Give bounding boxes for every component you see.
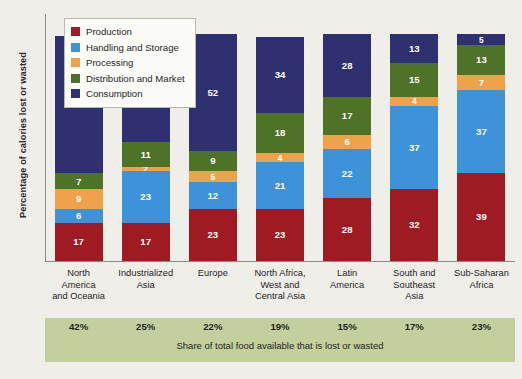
bar-segment[interactable]: 21 (256, 162, 304, 209)
bar-segment[interactable]: 7 (457, 75, 505, 91)
category-label-line: Southeast (381, 280, 448, 292)
category-label-line: America (314, 280, 381, 292)
category-label-line: South and (381, 268, 448, 280)
category-label-line: Sub-Saharan (448, 268, 515, 280)
x-axis-baseline (45, 261, 515, 262)
category-label: North Africa,West andCentral Asia (246, 268, 313, 303)
share-footer-note: Share of total food available that is lo… (45, 340, 515, 351)
bar-column[interactable]: 281762228 (323, 34, 371, 261)
category-label-line: Africa (448, 280, 515, 292)
bar-segment[interactable]: 4 (256, 153, 304, 162)
bar-segment[interactable]: 7 (55, 173, 103, 189)
bar-segment[interactable]: 23 (189, 209, 237, 261)
bar-column[interactable]: 52951223 (189, 34, 237, 261)
legend-item[interactable]: Processing (71, 55, 185, 71)
legend-item-label: Distribution and Market (86, 73, 185, 84)
bar-segment[interactable]: 5 (189, 171, 237, 182)
legend-item[interactable]: Consumption (71, 86, 185, 102)
legend-item[interactable]: Distribution and Market (71, 71, 185, 87)
bar-segment[interactable]: 12 (189, 182, 237, 209)
legend-item[interactable]: Production (71, 24, 185, 40)
category-label-line: Asia (112, 280, 179, 292)
bar-segment[interactable]: 4 (390, 97, 438, 106)
bar-segment[interactable]: 17 (55, 223, 103, 261)
legend-item-label: Consumption (86, 88, 143, 99)
bar-segment[interactable]: 17 (323, 97, 371, 135)
bar-segment[interactable]: 37 (457, 90, 505, 173)
legend-swatch-icon (71, 89, 80, 98)
bar-segment[interactable]: 34 (256, 37, 304, 113)
category-label: IndustrializedAsia (112, 268, 179, 291)
bar-segment[interactable]: 23 (256, 209, 304, 261)
legend-swatch-icon (71, 27, 80, 36)
legend-swatch-icon (71, 58, 80, 67)
category-label-line: Latin (314, 268, 381, 280)
legend-swatch-icon (71, 43, 80, 52)
category-label-line: West and (246, 280, 313, 292)
bar-segment[interactable]: 23 (122, 171, 170, 223)
bar-segment[interactable]: 11 (122, 142, 170, 167)
share-percentage: 17% (381, 321, 448, 332)
category-label: NorthAmericaand Oceania (45, 268, 112, 303)
category-label-line: Europe (179, 268, 246, 280)
category-label: South andSoutheastAsia (381, 268, 448, 303)
category-label: Sub-SaharanAfrica (448, 268, 515, 291)
chart-legend: ProductionHandling and StorageProcessing… (64, 18, 196, 108)
share-percentage: 22% (179, 321, 246, 332)
legend-item-label: Production (86, 26, 132, 37)
legend-item-label: Handling and Storage (86, 42, 179, 53)
category-label-line: Asia (381, 291, 448, 303)
bar-segment[interactable]: 32 (390, 189, 438, 261)
share-percentage: 23% (448, 321, 515, 332)
bar-segment[interactable]: 52 (189, 34, 237, 151)
bar-segment[interactable]: 37 (390, 106, 438, 189)
bar-column[interactable]: 341842123 (256, 37, 304, 262)
bar-segment[interactable]: 9 (55, 189, 103, 209)
bar-segment[interactable]: 6 (323, 135, 371, 148)
bar-segment[interactable]: 13 (390, 34, 438, 63)
bar-segment[interactable]: 13 (457, 45, 505, 74)
category-label-line: and Oceania (45, 291, 112, 303)
bar-segment[interactable]: 39 (457, 173, 505, 261)
category-label-line: Industrialized (112, 268, 179, 280)
legend-swatch-icon (71, 74, 80, 83)
stacked-bar-chart: Percentage of calories lost or wasted Pr… (0, 0, 522, 379)
bar-segment[interactable]: 17 (122, 223, 170, 261)
y-axis-title: Percentage of calories lost or wasted (14, 22, 32, 248)
share-percentage: 15% (314, 321, 381, 332)
bar-segment[interactable]: 28 (323, 198, 371, 261)
legend-item[interactable]: Handling and Storage (71, 40, 185, 56)
bar-segment[interactable]: 22 (323, 149, 371, 198)
bar-segment[interactable]: 18 (256, 113, 304, 153)
legend-item-label: Processing (86, 57, 133, 68)
category-label-line: America (45, 280, 112, 292)
category-label-line: North (45, 268, 112, 280)
bar-segment[interactable]: 5 (457, 34, 505, 45)
share-footer-band: 42%25%22%19%15%17%23% Share of total foo… (45, 318, 515, 362)
bar-column[interactable]: 51373739 (457, 34, 505, 261)
bar-segment[interactable]: 15 (390, 63, 438, 97)
category-label: LatinAmerica (314, 268, 381, 291)
bar-segment[interactable]: 9 (189, 151, 237, 171)
share-percentage: 42% (45, 321, 112, 332)
category-label: Europe (179, 268, 246, 280)
share-percentage: 25% (112, 321, 179, 332)
category-label-line: North Africa, (246, 268, 313, 280)
category-label-line: Central Asia (246, 291, 313, 303)
bar-segment[interactable]: 28 (323, 34, 371, 97)
share-percentage: 19% (246, 321, 313, 332)
bar-column[interactable]: 131543732 (390, 34, 438, 261)
bar-segment[interactable]: 6 (55, 209, 103, 222)
